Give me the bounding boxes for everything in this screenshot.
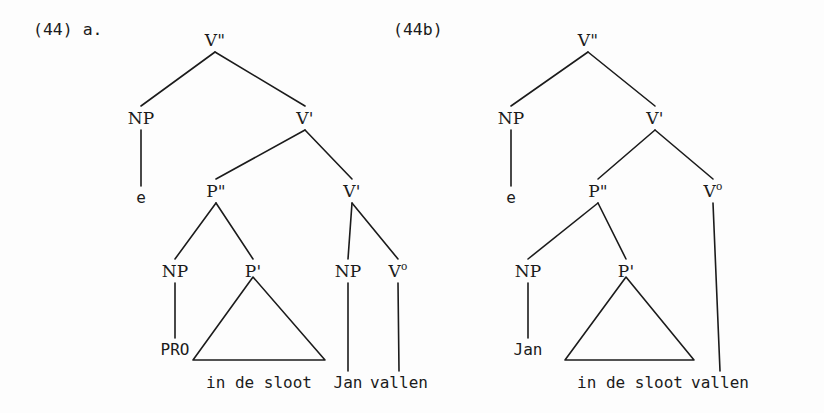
node-right-vmax: V" xyxy=(578,32,599,49)
node-superscript-zero: o xyxy=(401,260,408,272)
tree-edge-left-vmax-vbar1 xyxy=(215,52,305,106)
node-left-np3: NP xyxy=(335,263,362,280)
tree-edge-left-pmax-np2 xyxy=(175,203,216,259)
example-number-right: (44b) xyxy=(393,22,443,39)
terminal-left-t_vallen: vallen xyxy=(370,375,428,391)
tree-edge-left-vbar1-pmax xyxy=(216,130,305,179)
tree-edge-right-vbar1-vzero xyxy=(655,130,713,179)
node-right-vzero: Vo xyxy=(703,183,722,200)
constituent-triangle-left xyxy=(193,277,325,360)
tree-edge-right-vzero-t_vallen xyxy=(713,203,720,371)
terminal-right-t_vallen: vallen xyxy=(691,375,749,391)
tree-edge-left-pmax-pbar xyxy=(216,203,253,259)
node-left-np1: NP xyxy=(128,110,155,127)
tree-edge-right-pmax-pbar xyxy=(598,203,626,259)
node-left-pbar: P' xyxy=(245,263,262,280)
node-left-vbar1: V' xyxy=(296,110,313,127)
terminal-left-t_jan: Jan xyxy=(334,375,363,391)
node-label-text: V xyxy=(703,181,715,201)
tree-edge-right-vmax-np1 xyxy=(511,52,588,106)
tree-edge-left-vmax-np1 xyxy=(141,52,215,106)
node-right-pmax: P" xyxy=(588,183,608,200)
node-right-np1: NP xyxy=(498,110,525,127)
tree-edge-left-vbar2-np3 xyxy=(348,203,352,259)
terminal-right-t_indesloot: in de sloot xyxy=(577,375,683,391)
tree-edge-right-vbar1-pmax xyxy=(598,130,655,179)
terminal-right-jan: Jan xyxy=(514,342,543,358)
tree-edge-right-pmax-np2 xyxy=(528,203,598,259)
terminal-left-e: e xyxy=(136,190,146,206)
terminal-left-t_indesloot: in de sloot xyxy=(206,375,312,391)
tree-edge-layer xyxy=(0,0,824,413)
node-label-text: V xyxy=(388,261,400,281)
syntax-tree-figure: (44) a. (44b) V"NPeV'P"V'NPP'PRONPVoin d… xyxy=(0,0,824,413)
constituent-triangle-right xyxy=(565,277,694,360)
tree-edge-left-vbar2-vzero xyxy=(352,203,398,259)
tree-edge-left-vbar1-vbar2 xyxy=(305,130,352,179)
node-superscript-zero: o xyxy=(716,180,723,192)
tree-edge-left-vzero-t_vallen xyxy=(398,283,399,371)
node-left-vzero: Vo xyxy=(388,263,407,280)
terminal-right-e: e xyxy=(506,190,516,206)
node-right-np2: NP xyxy=(515,263,542,280)
node-right-vbar1: V' xyxy=(646,110,663,127)
node-left-np2: NP xyxy=(162,263,189,280)
node-right-pbar: P' xyxy=(618,263,635,280)
terminal-left-pro: PRO xyxy=(161,342,190,358)
example-number-left: (44) a. xyxy=(33,22,103,39)
node-left-vbar2: V' xyxy=(343,183,360,200)
node-left-pmax: P" xyxy=(206,183,226,200)
tree-edge-right-vmax-vbar1 xyxy=(588,52,655,106)
node-left-vmax: V" xyxy=(205,32,226,49)
